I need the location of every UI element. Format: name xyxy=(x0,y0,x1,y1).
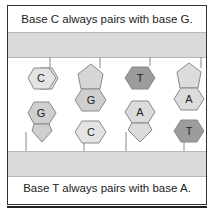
nucleotide-pairs: C G G C T A xyxy=(8,6,208,206)
base-pairing-diagram: Base C always pairs with base G. Base T … xyxy=(7,5,207,205)
base-label-c: C xyxy=(37,72,45,84)
pair-t-a: T A xyxy=(125,57,155,151)
svg-text:A: A xyxy=(185,93,193,105)
sugar-pentagon xyxy=(78,64,103,89)
pair-a-t: A T xyxy=(174,57,204,151)
svg-text:T: T xyxy=(186,125,193,137)
svg-text:G: G xyxy=(87,94,96,106)
pair-g-c: G C xyxy=(75,57,106,151)
sugar-pentagon xyxy=(177,63,201,88)
bottom-rule xyxy=(7,206,207,208)
pair-c-g: C G xyxy=(26,57,58,151)
sugar-pentagon xyxy=(128,123,152,142)
svg-text:G: G xyxy=(37,107,46,119)
svg-text:A: A xyxy=(136,106,144,118)
svg-text:C: C xyxy=(87,126,95,138)
svg-text:T: T xyxy=(137,72,144,84)
sugar-pentagon xyxy=(32,124,52,142)
